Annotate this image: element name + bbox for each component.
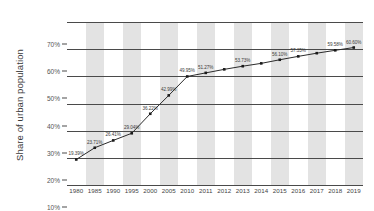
x-tick-label: 2014 [254, 187, 268, 194]
y-tick-mark [62, 207, 67, 208]
urban-population-line-chart: Share of urban population 10%20%30%40%50… [0, 0, 374, 210]
y-tick-label: 50% [47, 95, 60, 102]
data-point-marker [315, 52, 318, 55]
x-tick-label: 2019 [347, 187, 361, 194]
data-point-label: 51.27% [198, 65, 213, 70]
data-point-label: 42.99% [161, 87, 176, 92]
data-point-label: 60.60% [346, 40, 361, 45]
data-point-marker [130, 132, 133, 135]
x-axis-labels: 1980198519901995200020052010201120122013… [67, 187, 363, 201]
x-tick-label: 2005 [162, 187, 176, 194]
data-point-marker [149, 112, 152, 115]
data-point-marker [241, 65, 244, 68]
x-tick-label: 2016 [291, 187, 305, 194]
data-point-label: 49.95% [180, 68, 195, 73]
data-point-marker [352, 46, 355, 49]
x-tick-label: 2018 [328, 187, 342, 194]
x-tick-label: 2015 [273, 187, 287, 194]
x-tick-label: 1990 [106, 187, 120, 194]
data-point-marker [278, 58, 281, 61]
data-point-marker [223, 68, 226, 71]
data-point-label: 57.35% [291, 48, 306, 53]
y-tick-label: 60% [47, 68, 60, 75]
data-point-marker [167, 94, 170, 97]
data-point-marker [75, 158, 78, 161]
data-point-label: 19.39% [69, 151, 84, 156]
y-tick-label: 40% [47, 122, 60, 129]
series-line [67, 22, 363, 185]
x-tick-label: 2000 [143, 187, 157, 194]
x-tick-label: 2012 [217, 187, 231, 194]
x-tick-label: 2017 [310, 187, 324, 194]
data-point-label: 26.41% [106, 132, 121, 137]
x-tick-label: 2013 [236, 187, 250, 194]
y-axis-ticks: 10%20%30%40%50%60%70% [0, 22, 67, 185]
data-point-label: 23.71% [87, 140, 102, 145]
y-tick-label: 20% [47, 176, 60, 183]
series-path [76, 48, 354, 160]
data-point-marker [93, 146, 96, 149]
y-tick-label: 30% [47, 149, 60, 156]
data-point-marker [297, 55, 300, 58]
data-point-label: 56.10% [272, 52, 287, 57]
data-point-label: 29.04% [124, 125, 139, 130]
plot-area: 19.39%23.71%26.41%29.04%36.22%42.99%49.9… [67, 22, 363, 185]
x-tick-label: 2011 [199, 187, 212, 194]
data-point-label: 53.73% [235, 58, 250, 63]
gridline [67, 185, 363, 186]
data-point-marker [260, 62, 263, 65]
data-point-marker [186, 75, 189, 78]
data-point-marker [204, 72, 207, 75]
data-point-marker [334, 49, 337, 52]
data-point-label: 59.58% [328, 42, 343, 47]
x-tick-label: 2010 [180, 187, 194, 194]
data-point-marker [112, 139, 115, 142]
y-tick-label: 70% [47, 41, 60, 48]
x-tick-label: 1995 [125, 187, 139, 194]
y-tick-label: 10% [47, 204, 60, 211]
x-tick-label: 1980 [69, 187, 83, 194]
data-point-label: 36.22% [143, 106, 158, 111]
x-tick-label: 1985 [88, 187, 102, 194]
